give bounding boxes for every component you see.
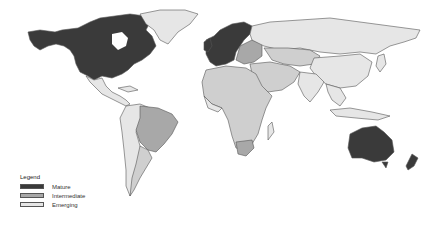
- legend-label: Mature: [52, 184, 71, 190]
- map-legend: Legend Mature Intermediate Emerging: [20, 174, 85, 209]
- region-brazil: [136, 106, 178, 152]
- region-madagascar: [268, 122, 274, 140]
- region-mexico-central-america: [86, 76, 130, 106]
- legend-item-emerging: Emerging: [20, 200, 85, 209]
- region-north-america-mature: [28, 14, 156, 80]
- legend-swatch-intermediate: [20, 193, 44, 198]
- region-caribbean: [118, 86, 138, 92]
- legend-item-mature: Mature: [20, 182, 85, 191]
- legend-title: Legend: [20, 174, 85, 180]
- world-map: [0, 0, 435, 249]
- region-south-africa: [236, 140, 254, 156]
- region-indonesia: [330, 108, 390, 120]
- legend-label: Emerging: [52, 202, 78, 208]
- legend-swatch-mature: [20, 184, 44, 189]
- region-tasmania: [382, 162, 388, 168]
- legend-swatch-emerging: [20, 202, 44, 207]
- region-new-zealand: [406, 154, 418, 170]
- region-japan: [376, 54, 386, 72]
- region-australia: [348, 126, 394, 162]
- legend-item-intermediate: Intermediate: [20, 191, 85, 200]
- legend-label: Intermediate: [52, 193, 85, 199]
